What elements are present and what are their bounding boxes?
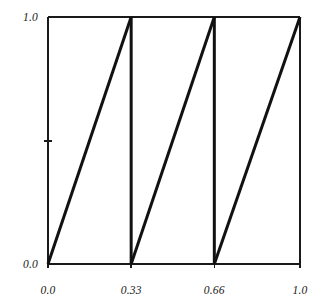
x-tick-label-2: 0.66 bbox=[204, 284, 225, 296]
y-tick-label-2: 1.0 bbox=[23, 11, 38, 23]
x-tick-label-1: 0.33 bbox=[121, 284, 142, 296]
data-series-sawtooth bbox=[48, 17, 300, 264]
x-tick-label-0: 0.0 bbox=[41, 284, 56, 296]
series-segment-2 bbox=[131, 17, 214, 264]
series-segment-4 bbox=[214, 17, 300, 264]
plot-figure: 0.00.330.661.00.01.0 bbox=[0, 0, 318, 306]
y-tick-label-0: 0.0 bbox=[23, 258, 38, 270]
x-tick-label-3: 1.0 bbox=[293, 284, 308, 296]
plot-canvas bbox=[0, 0, 318, 306]
series-segment-0 bbox=[48, 17, 131, 264]
chart-screenshot: 0.00.330.661.00.01.0 bbox=[0, 0, 318, 306]
